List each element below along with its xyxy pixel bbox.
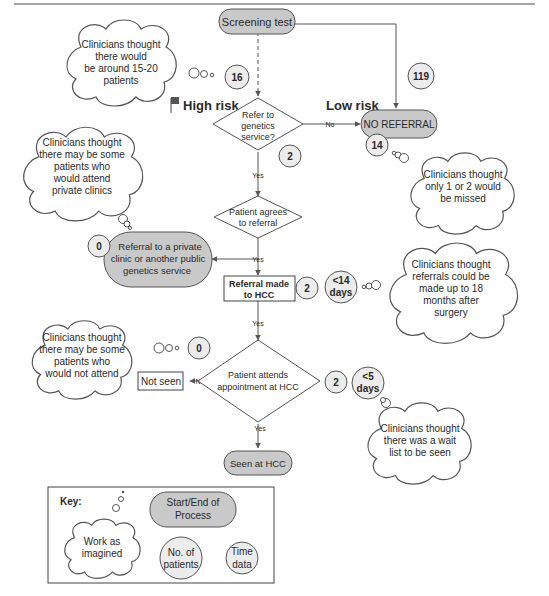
svg-text:Clinicians thought: Clinicians thought [424,169,503,180]
svg-text:Patient agrees: Patient agrees [229,207,288,217]
svg-text:patients: patients [163,559,198,570]
svg-text:surgery: surgery [434,307,467,318]
svg-text:Clinicians thought: Clinicians thought [82,39,161,50]
svg-text:16: 16 [231,72,243,83]
svg-text:14: 14 [371,140,383,151]
time-referral: <14 days [325,271,357,303]
high-risk-flag-icon [171,97,179,113]
label-yes-refer: Yes [252,172,264,179]
high-risk-label: High risk [183,98,239,113]
seen-at-hcc-node: Seen at HCC [224,451,292,475]
flowchart: No Yes Yes Yes No Yes Screening test Hig… [0,0,549,596]
svg-text:there would: there would [95,51,147,62]
cloud-private-clinics: Clinicians thought there may be some pat… [24,127,143,229]
count-low-risk: 119 [408,63,434,89]
svg-text:2: 2 [333,377,339,388]
svg-text:list to be seen: list to be seen [389,447,451,458]
svg-text:Seen at HCC: Seen at HCC [230,458,286,469]
not-seen-node: Not seen [138,372,183,390]
svg-text:imagined: imagined [82,548,123,559]
svg-text:Screening test: Screening test [222,16,292,28]
label-no-refer: No [326,121,335,128]
cloud-expected-patients: Clinicians thought there would be around… [67,20,214,106]
count-refer: 2 [279,145,301,167]
cloud-wait-list: Clinicians thought there was a wait list… [368,398,471,485]
svg-text:days: days [357,383,380,394]
label-yes-agrees: Yes [252,256,264,263]
svg-text:Process: Process [175,510,211,521]
svg-text:Clinicians thought: Clinicians thought [43,137,122,148]
svg-text:service?: service? [241,132,275,142]
svg-text:data: data [232,559,252,570]
svg-text:be missed: be missed [440,193,486,204]
legend-key: Key: Work as imagined Start/End of Proce… [48,487,274,583]
svg-text:Refer to: Refer to [242,110,274,120]
svg-text:referrals could be: referrals could be [412,271,490,282]
svg-text:0: 0 [196,343,202,354]
count-not-seen: 0 [188,337,210,359]
svg-text:Referral made: Referral made [229,279,289,289]
svg-text:Start/End of: Start/End of [167,497,220,508]
svg-text:patients who: patients who [54,356,111,367]
count-private: 0 [88,235,110,257]
svg-text:to HCC: to HCC [244,290,275,300]
svg-text:Clinicians thought: Clinicians thought [43,332,122,343]
svg-text:clinic or another public: clinic or another public [111,253,206,264]
label-yes-attends: Yes [254,425,266,432]
svg-text:Clinicians thought: Clinicians thought [381,423,460,434]
referral-made-node: Referral made to HCC [224,276,295,301]
svg-text:months after: months after [423,295,479,306]
screening-test-node: Screening test [219,9,295,34]
svg-text:be around 15-20: be around 15-20 [84,63,158,74]
private-referral-node: Referral to a private clinic or another … [104,232,212,287]
svg-text:Patient attends: Patient attends [228,370,289,380]
svg-text:Referral to a private: Referral to a private [118,241,201,252]
svg-text:private clinics: private clinics [52,185,112,196]
svg-text:2: 2 [304,283,310,294]
svg-text:patients who: patients who [54,161,111,172]
count-attends: 2 [325,371,347,393]
svg-text:0: 0 [96,241,102,252]
svg-text:<5: <5 [362,371,374,382]
count-no-referral: 14 [366,134,388,156]
svg-text:days: days [330,287,353,298]
svg-text:2: 2 [287,151,293,162]
patient-agrees-decision: Patient agrees to referral [214,196,302,238]
svg-text:made up to 18: made up to 18 [419,283,483,294]
svg-text:Not seen: Not seen [141,376,181,387]
svg-text:Work as: Work as [84,536,121,547]
attends-appointment-decision: Patient attends appointment at HCC [198,340,320,422]
svg-text:Clinicians thought: Clinicians thought [412,259,491,270]
svg-text:appointment at HCC: appointment at HCC [217,382,299,392]
svg-text:would not attend: would not attend [44,368,118,379]
label-yes-referral: Yes [252,320,264,327]
svg-text:<14: <14 [333,275,350,286]
count-referral-made: 2 [296,277,318,299]
svg-text:genetics service: genetics service [123,265,191,276]
svg-text:119: 119 [413,71,430,82]
svg-text:NO REFERRAL: NO REFERRAL [363,119,435,130]
svg-text:there may be some: there may be some [39,149,125,160]
cloud-referral-time: Clinicians thought referrals could be ma… [362,243,517,343]
svg-text:only 1 or 2 would: only 1 or 2 would [425,181,501,192]
svg-text:there may be some: there may be some [39,344,125,355]
svg-text:Time: Time [231,546,253,557]
svg-text:would attend: would attend [53,173,111,184]
time-appointment: <5 days [352,367,384,399]
cloud-missed: Clinicians thought only 1 or 2 would be … [392,151,514,234]
svg-text:to referral: to referral [239,218,278,228]
svg-text:there was a wait: there was a wait [384,435,456,446]
svg-text:No. of: No. of [168,547,195,558]
no-referral-node: NO REFERRAL [361,110,437,138]
count-high-risk: 16 [225,65,249,89]
svg-text:patients: patients [103,75,138,86]
svg-text:genetics: genetics [241,121,275,131]
key-title: Key: [60,496,82,507]
